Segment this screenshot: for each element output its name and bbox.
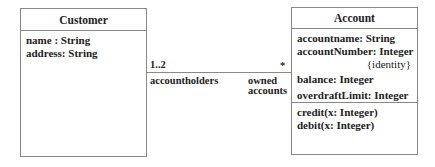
attribute: address: String — [26, 47, 146, 60]
attribute: name : String — [26, 34, 146, 47]
customer-class[interactable]: Customer name : String address: String — [20, 8, 147, 157]
attribute: accountNumber: Integer — [297, 45, 417, 58]
right-multiplicity: * — [280, 61, 285, 71]
attribute: accountname: String — [297, 32, 417, 45]
operation: credit(x: Integer) — [297, 106, 417, 119]
attribute-constraint: {identity} — [297, 58, 417, 71]
attribute: balance: Integer — [297, 73, 417, 86]
operation: debit(x: Integer) — [297, 119, 417, 132]
left-role: accountholders — [150, 76, 218, 86]
right-role-line2: accounts — [248, 86, 287, 96]
left-multiplicity: 1..2 — [150, 60, 166, 70]
account-operations: credit(x: Integer) debit(x: Integer) — [292, 103, 417, 132]
customer-attributes: name : String address: String — [21, 31, 146, 60]
account-attributes: accountname: String accountNumber: Integ… — [292, 29, 417, 103]
account-class[interactable]: Account accountname: String accountNumbe… — [291, 7, 418, 155]
association-line[interactable] — [147, 72, 291, 73]
account-class-name: Account — [292, 8, 417, 29]
customer-class-name: Customer — [21, 9, 146, 31]
attribute: overdraftLimit: Integer — [297, 89, 417, 102]
